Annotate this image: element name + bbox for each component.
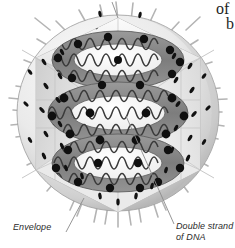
- virus-illustration: [0, 0, 235, 248]
- label-double-strand-dna: Double strand of DNA: [176, 221, 233, 242]
- virus-diagram-figure: Envelope Double strand of DNA of b: [0, 0, 235, 248]
- dna-coil-3: [52, 134, 184, 192]
- label-dna-line1: Double strand: [176, 221, 233, 231]
- label-envelope: Envelope: [13, 222, 51, 233]
- leader-envelope: [66, 198, 84, 232]
- bleed-line-1: of: [210, 1, 234, 16]
- label-dna-line2: of DNA: [176, 232, 206, 242]
- bleed-line-2: b: [210, 16, 234, 31]
- adjacent-text-bleed: of b: [210, 1, 234, 31]
